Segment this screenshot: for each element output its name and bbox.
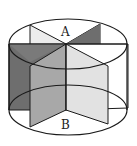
label-b: B xyxy=(61,118,70,132)
cylinder-diagram: A B xyxy=(0,0,137,146)
label-a: A xyxy=(60,25,70,39)
